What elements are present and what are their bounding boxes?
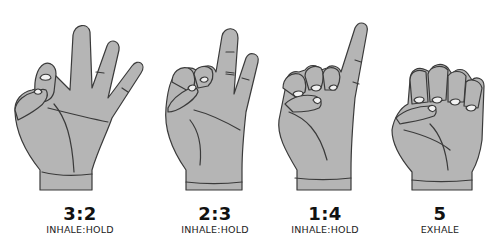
gesture-panel-1: 3:2 INHALE:HOLD <box>0 0 160 252</box>
gesture-caption-3: 1:4 INHALE:HOLD <box>265 204 385 236</box>
breath-ratio-label: EXHALE <box>380 224 493 236</box>
breath-ratio: 1:4 <box>265 204 385 224</box>
breath-ratio-label: INHALE:HOLD <box>20 224 140 236</box>
gesture-caption-4: 5 EXHALE <box>380 204 493 236</box>
hand-thumb-to-pinky-icon <box>0 0 160 195</box>
breath-ratio-label: INHALE:HOLD <box>155 224 275 236</box>
breath-ratio-label: INHALE:HOLD <box>265 224 385 236</box>
gesture-caption-1: 3:2 INHALE:HOLD <box>20 204 140 236</box>
gesture-panel-2: 2:3 INHALE:HOLD <box>150 0 280 252</box>
hand-fist-icon <box>390 0 493 195</box>
gesture-panel-4: 5 EXHALE <box>390 0 493 252</box>
gesture-panel-3: 1:4 INHALE:HOLD <box>275 0 385 252</box>
gesture-caption-2: 2:3 INHALE:HOLD <box>155 204 275 236</box>
breath-ratio: 5 <box>380 204 493 224</box>
breath-ratio: 3:2 <box>20 204 140 224</box>
hand-thumb-to-ring-pinky-icon <box>150 0 280 195</box>
breath-ratio: 2:3 <box>155 204 275 224</box>
hand-thumb-to-middle-ring-pinky-icon <box>275 0 385 195</box>
